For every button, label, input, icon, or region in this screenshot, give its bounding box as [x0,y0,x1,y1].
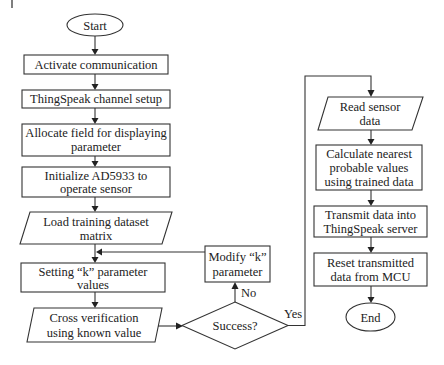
load-line-2: matrix [80,229,113,243]
initialize-line-2: operate sensor [60,182,133,196]
arrow-down-icon [92,257,99,263]
arrow-down-icon [92,161,99,167]
setting-k-parameter-node: Setting “k” parameter values [21,263,165,292]
arrow-down-icon [368,90,375,97]
cross-verification-node: Cross verification using known value [27,308,162,342]
activate-communication-node: Activate communication [24,55,168,74]
calculate-nearest-node: Calculate nearest probable values using … [316,145,422,190]
read-line-1: Read sensor [340,100,402,114]
success-decision-node: Success? [182,302,288,349]
cross-line-2: using known value [47,326,142,340]
arrow-down-icon [368,247,375,253]
arrow-down-icon [92,206,99,212]
channel-setup-node: ThingSpeak channel setup [22,90,170,108]
reset-line-2: data from MCU [331,270,411,284]
load-training-dataset-node: Load training dataset matrix [20,212,172,244]
arrow-down-icon [368,200,375,206]
reset-line-1: Reset transmitted [327,256,415,270]
channel-label: ThingSpeak channel setup [30,92,162,106]
transmit-data-node: Transmit data into ThingSpeak server [314,206,427,237]
flowchart: Start Activate communication ThingSpeak … [0,0,444,365]
end-label: End [360,311,381,325]
read-line-2: data [360,114,381,128]
load-line-1: Load training dataset [43,215,149,229]
calculate-line-1: Calculate nearest [326,147,412,161]
calculate-line-3: using trained data [325,175,414,189]
cross-line-1: Cross verification [49,311,139,325]
transmit-line-1: Transmit data into [325,208,416,222]
arrow-down-icon [92,84,99,90]
arrow-down-icon [368,297,375,303]
arrow-down-icon [368,139,375,145]
reset-transmitted-data-node: Reset transmitted data from MCU [314,253,427,286]
modify-line-2: parameter [213,265,264,279]
allocate-line-1: Allocate field for displaying [25,126,167,140]
arrow-down-icon [92,302,99,308]
initialize-ad5933-node: Initialize AD5933 to operate sensor [22,167,170,197]
allocate-field-node: Allocate field for displaying parameter [22,124,170,156]
setting-line-2: values [77,278,109,292]
start-label: Start [83,19,107,33]
yes-label: Yes [284,307,302,321]
no-label: No [241,286,256,300]
modify-k-parameter-node: Modify “k” parameter [205,246,270,282]
setting-line-1: Setting “k” parameter [39,265,149,279]
transmit-line-2: ThingSpeak server [323,222,418,236]
end-node: End [346,303,395,331]
allocate-line-2: parameter [71,140,122,154]
arrow-down-icon [92,118,99,124]
modify-line-1: Modify “k” [209,250,267,264]
arrow-up-icon [232,282,239,289]
arrow-left-icon [96,249,102,256]
read-sensor-data-node: Read sensor data [318,97,423,130]
activate-label: Activate communication [34,58,158,72]
arrow-down-icon [92,49,99,55]
start-node: Start [67,14,123,36]
calculate-line-2: probable values [330,161,409,175]
decision-label: Success? [212,319,258,333]
initialize-line-1: Initialize AD5933 to [45,169,148,183]
